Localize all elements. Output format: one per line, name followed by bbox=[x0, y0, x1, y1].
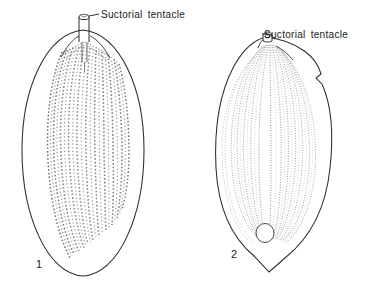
figure-2-group bbox=[216, 32, 332, 272]
figure-1-shoulder-right bbox=[90, 36, 110, 58]
figure-1-group bbox=[22, 14, 144, 276]
figure-1-number: 1 bbox=[36, 258, 42, 270]
figure-1-leader-line bbox=[89, 14, 99, 16]
illustration-plate bbox=[0, 0, 366, 295]
figure-2-basal-pore bbox=[256, 224, 274, 243]
figure-1-shoulder-left bbox=[61, 36, 79, 57]
figure-1-ornament bbox=[48, 42, 129, 258]
figure-2-tentacle-label: Suctorial tentacle bbox=[264, 29, 348, 40]
figure-1-tentacle-label: Suctorial tentacle bbox=[101, 9, 185, 20]
figure-2-ornament bbox=[222, 45, 315, 244]
figure-2-number: 2 bbox=[231, 248, 237, 260]
figure-1-outline bbox=[22, 30, 144, 276]
